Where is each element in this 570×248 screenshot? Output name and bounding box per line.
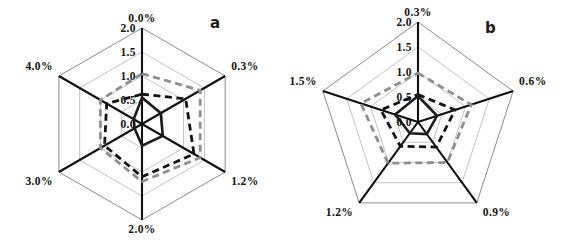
- category-label-0: 0.0%: [128, 12, 155, 24]
- axis-tick-label-2: 1.0: [120, 70, 136, 82]
- category-label-0: 0.3%: [404, 6, 431, 18]
- radar-chart-figure: 0.00.51.01.52.0 0.0%0.3%1.2%2.0%3.0%4.0%…: [0, 0, 570, 248]
- category-label-4: 3.0%: [25, 175, 52, 187]
- category-label-2: 1.2%: [231, 175, 258, 187]
- panel-letter-b: b: [485, 19, 496, 37]
- axis-tick-label-3: 1.5: [120, 46, 136, 58]
- radar-panel-b: 0.00.51.01.52.0 0.3%0.6%0.9%1.2%1.5% b: [285, 0, 570, 248]
- radar-panel-a: 0.00.51.01.52.0 0.0%0.3%1.2%2.0%3.0%4.0%…: [0, 0, 285, 248]
- category-label-3: 2.0%: [128, 223, 155, 235]
- axis-tick-label-0: 0.0: [120, 118, 136, 130]
- series-layer-b: [361, 73, 471, 163]
- category-label-2: 0.9%: [483, 206, 510, 218]
- data-series-2: [105, 94, 194, 177]
- panel-letter-a: a: [210, 14, 220, 32]
- radar-chart-a-svg: 0.00.51.01.52.0 0.0%0.3%1.2%2.0%3.0%4.0%…: [0, 0, 285, 248]
- category-label-5: 4.0%: [25, 60, 52, 72]
- axis-tick-label-1: 0.5: [120, 94, 136, 106]
- category-label-3: 1.2%: [326, 206, 353, 218]
- category-label-1: 0.3%: [231, 60, 258, 72]
- axis-tick-label-2: 1.0: [396, 66, 412, 78]
- category-label-1: 0.6%: [519, 75, 546, 87]
- data-series-3: [361, 73, 471, 163]
- axis-tick-label-1: 0.5: [396, 91, 412, 103]
- radar-chart-b-svg: 0.00.51.01.52.0 0.3%0.6%0.9%1.2%1.5% b: [285, 0, 570, 248]
- axis-tick-label-0: 0.0: [396, 116, 412, 128]
- axis-tick-label-3: 1.5: [396, 41, 412, 53]
- category-label-4: 1.5%: [289, 75, 316, 87]
